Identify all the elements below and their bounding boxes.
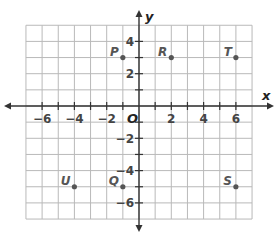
- x-axis-label: x: [261, 88, 271, 103]
- point-marker: [233, 55, 238, 60]
- point-marker: [169, 55, 174, 60]
- point-marker: [233, 184, 238, 189]
- x-tick-label: 6: [232, 112, 240, 126]
- origin-label: O: [127, 111, 138, 126]
- point-label: U: [61, 174, 71, 188]
- x-axis-left-arrow-icon: [4, 103, 11, 110]
- point-marker: [120, 184, 125, 189]
- y-tick-label: −2: [116, 132, 134, 146]
- y-axis-label: y: [145, 9, 154, 24]
- point-label: P: [110, 45, 119, 59]
- x-tick-label: 2: [167, 112, 175, 126]
- x-axis-right-arrow-icon: [267, 103, 274, 110]
- y-tick-label: 4: [126, 35, 134, 49]
- y-axis-down-arrow-icon: [136, 225, 143, 232]
- y-axis-up-arrow-icon: [136, 10, 143, 17]
- coordinate-plane: −6−4−224642−2−4−6 x y O PRTUQS: [0, 0, 279, 236]
- point-label: T: [224, 45, 233, 59]
- point-label: Q: [109, 174, 119, 188]
- point-label: S: [223, 174, 232, 188]
- x-tick-label: 4: [199, 112, 207, 126]
- point-marker: [72, 184, 77, 189]
- point-label: R: [158, 45, 167, 59]
- x-tick-label: −4: [65, 112, 83, 126]
- point-marker: [120, 55, 125, 60]
- x-tick-label: −6: [33, 112, 51, 126]
- y-tick-label: −6: [116, 196, 134, 210]
- points: PRTUQS: [61, 45, 239, 190]
- x-tick-label: −2: [97, 112, 115, 126]
- y-tick-label: 2: [126, 67, 134, 81]
